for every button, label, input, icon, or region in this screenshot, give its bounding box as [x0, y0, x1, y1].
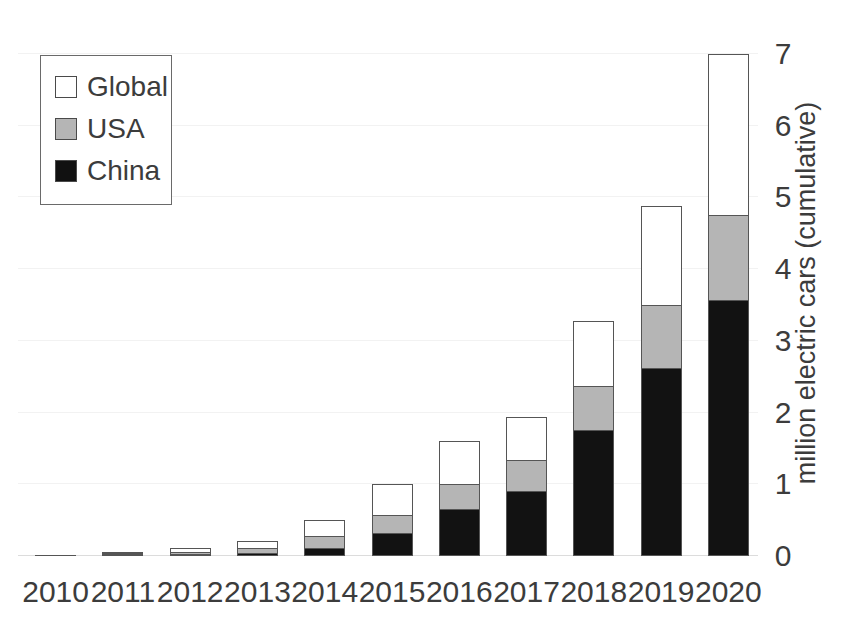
- bar-segment-usa: [372, 515, 413, 533]
- x-tick-label: 2019: [628, 572, 695, 612]
- bar-segment-usa: [304, 536, 345, 548]
- x-tick-label: 2010: [22, 572, 89, 612]
- y-axis-title: million electric cars (cumulative): [786, 20, 826, 566]
- bar-segment-china: [170, 554, 211, 556]
- bar-2014[interactable]: [304, 520, 345, 556]
- bar-segment-china: [506, 491, 547, 556]
- bar-2018[interactable]: [573, 321, 614, 556]
- bar-segment-usa: [708, 215, 749, 300]
- bar-2010[interactable]: [35, 555, 76, 556]
- bar-segment-usa: [506, 460, 547, 491]
- bar-segment-global: [35, 555, 76, 556]
- bar-2020[interactable]: [708, 54, 749, 556]
- x-tick-label: 2020: [695, 572, 762, 612]
- bar-segment-china: [237, 553, 278, 556]
- legend-item-usa[interactable]: USA: [55, 108, 159, 150]
- legend-item-global[interactable]: Global: [55, 66, 159, 108]
- bar-2012[interactable]: [170, 548, 211, 556]
- legend-item-label: Global: [87, 72, 168, 102]
- x-tick-label: 2017: [493, 572, 560, 612]
- bar-segment-global: [506, 417, 547, 460]
- black-square-swatch-icon: [55, 160, 77, 182]
- legend-item-china[interactable]: China: [55, 150, 159, 192]
- stacked-bar-chart: 01234567 million electric cars (cumulati…: [0, 0, 860, 631]
- bar-segment-global: [573, 321, 614, 386]
- bar-segment-china: [708, 300, 749, 556]
- bar-segment-china: [102, 554, 143, 556]
- bar-2013[interactable]: [237, 541, 278, 556]
- bar-2016[interactable]: [439, 441, 480, 556]
- bar-segment-china: [641, 368, 682, 556]
- x-tick-label: 2014: [291, 572, 358, 612]
- white-square-swatch-icon: [55, 76, 77, 98]
- bar-segment-usa: [573, 386, 614, 430]
- bar-segment-global: [304, 520, 345, 536]
- legend-item-label: USA: [87, 114, 145, 144]
- x-tick-label: 2011: [91, 572, 156, 612]
- bar-2017[interactable]: [506, 417, 547, 556]
- bar-segment-global: [708, 54, 749, 215]
- bar-segment-china: [573, 430, 614, 556]
- x-tick-label: 2013: [224, 572, 291, 612]
- x-tick-label: 2015: [359, 572, 426, 612]
- bar-2015[interactable]: [372, 484, 413, 556]
- bar-segment-global: [641, 206, 682, 305]
- x-axis-ticks: 2010201120122013201420152016201720182019…: [18, 572, 758, 618]
- bar-segment-global: [372, 484, 413, 515]
- x-tick-label: 2016: [426, 572, 493, 612]
- chart-legend: Global USA China: [40, 55, 172, 205]
- bar-segment-china: [304, 548, 345, 556]
- legend-item-label: China: [87, 156, 160, 186]
- bar-segment-china: [439, 509, 480, 556]
- bar-2011[interactable]: [102, 552, 143, 556]
- x-tick-label: 2018: [560, 572, 627, 612]
- bar-segment-usa: [641, 305, 682, 368]
- gray-square-swatch-icon: [55, 118, 77, 140]
- bar-segment-global: [439, 441, 480, 485]
- x-tick-label: 2012: [157, 572, 224, 612]
- bar-segment-global: [237, 541, 278, 548]
- bar-segment-usa: [439, 484, 480, 509]
- bar-2019[interactable]: [641, 206, 682, 556]
- bar-segment-china: [372, 533, 413, 556]
